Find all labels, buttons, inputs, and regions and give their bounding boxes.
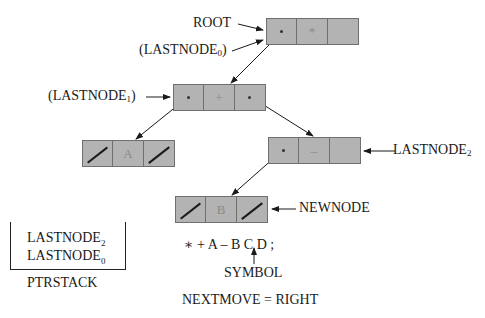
symbol-label: SYMBOL xyxy=(224,265,282,281)
minus-left-pointer-cell xyxy=(269,138,299,163)
newnode-label: NEWNODE xyxy=(299,200,370,216)
root-label: ROOT xyxy=(193,15,231,31)
root-value-cell: * xyxy=(297,19,327,44)
ptrstack-box: LASTNODE2 LASTNODE0 xyxy=(10,222,126,270)
lastnode1-label: (LASTNODE1) xyxy=(48,88,136,104)
nextmove-label: NEXTMOVE = RIGHT xyxy=(182,292,318,308)
root-node: * xyxy=(266,18,359,45)
b-left-nil-cell xyxy=(176,197,206,222)
plus-node: + xyxy=(173,84,266,111)
minus-right-cell xyxy=(330,138,360,163)
a-node: A xyxy=(82,140,175,167)
minus-node: – xyxy=(268,137,361,164)
plus-right-pointer-cell xyxy=(235,85,265,110)
b-node: B xyxy=(175,196,268,223)
pointer-dot-icon xyxy=(282,149,285,152)
plus-value-cell: + xyxy=(204,85,234,110)
root-right-cell xyxy=(328,19,358,44)
lastnode0-label: (LASTNODE0) xyxy=(139,42,227,58)
lastnode2-label: LASTNODE2 xyxy=(393,142,471,158)
ptrstack-label: PTRSTACK xyxy=(27,275,97,291)
root-left-pointer-cell xyxy=(267,19,297,44)
a-value-cell: A xyxy=(113,141,143,166)
a-left-nil-cell xyxy=(83,141,113,166)
pointer-dot-icon xyxy=(248,96,251,99)
pointer-dot-icon xyxy=(280,30,283,33)
plus-left-pointer-cell xyxy=(174,85,204,110)
input-expression: ∗ + A – B C D ; xyxy=(184,236,274,253)
b-value-cell: B xyxy=(206,197,236,222)
b-right-nil-cell xyxy=(237,197,267,222)
stack-entry: LASTNODE2 xyxy=(27,230,105,248)
a-right-nil-cell xyxy=(144,141,174,166)
stack-entry: LASTNODE0 xyxy=(27,248,105,266)
pointer-dot-icon xyxy=(187,96,190,99)
minus-value-cell: – xyxy=(299,138,329,163)
